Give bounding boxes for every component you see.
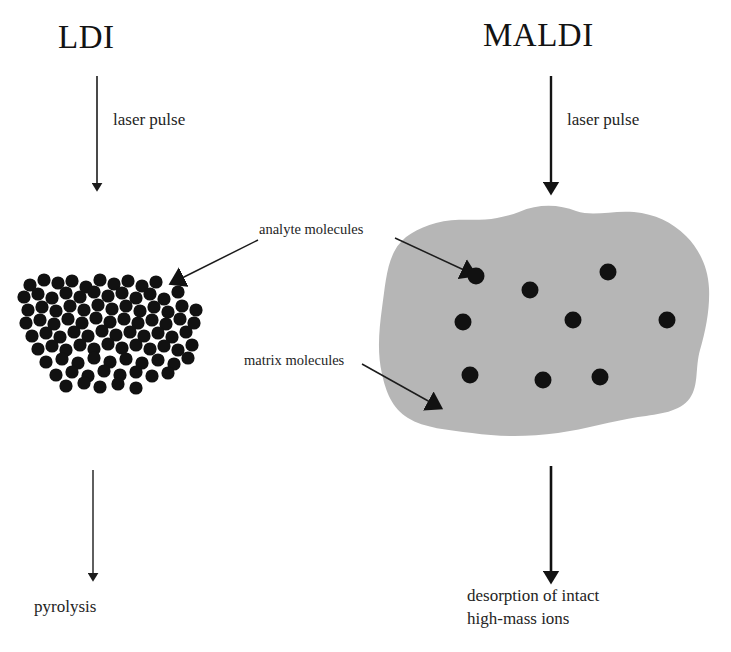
analyte-molecule-dot [95,324,108,337]
analyte-molecule-dot [37,273,50,286]
analyte-molecule-dot [63,299,76,312]
analyte-molecule-dot [161,305,174,318]
analyte-molecule-dot [115,286,128,299]
analyte-molecule-dot [143,342,156,355]
analyte-molecule-dot [21,303,34,316]
analyte-molecule-dot [55,352,68,365]
analyte-molecule-dot [111,377,124,390]
maldi-outcome-label-line2: high-mass ions [467,609,569,629]
analyte-molecule-dot [89,311,102,324]
analyte-molecule-dot [101,337,114,350]
analyte-molecule-dot [65,365,78,378]
analyte-molecule-dot [522,282,539,299]
analyte-molecule-dot [33,313,46,326]
analyte-molecule-dot [87,351,100,364]
analyte-molecule-dot [59,379,72,392]
analyte-molecule-dot [119,299,132,312]
analyte-molecule-dot [77,376,90,389]
analyte-leader-left [182,240,258,278]
analyte-molecule-dot [35,300,48,313]
analyte-molecule-dot [659,312,676,329]
analyte-molecule-dot [121,274,134,287]
analyte-molecule-dot [468,268,485,285]
analyte-molecule-dot [119,352,132,365]
ldi-panel-title: LDI [58,18,114,57]
analyte-molecule-dot [49,368,62,381]
analyte-molecule-dot [67,325,80,338]
analyte-molecule-dot [45,291,58,304]
analyte-molecule-dot [101,289,114,302]
analyte-molecule-dot [61,312,74,325]
analyte-molecule-dot [189,303,202,316]
ldi-laser-pulse-label: laser pulse [113,110,185,130]
analyte-molecule-dot [123,325,136,338]
analyte-molecule-dot [175,299,188,312]
analyte-molecule-dot [93,380,106,393]
analyte-molecule-dot [462,367,479,384]
analyte-molecule-dot [65,274,78,287]
analyte-molecule-dot [59,286,72,299]
analyte-molecule-dot [117,312,130,325]
analyte-molecule-dot [133,304,146,317]
analyte-molecule-dot [31,342,44,355]
analyte-molecules-label: analyte molecules [259,221,363,238]
analyte-molecule-dot [151,353,164,366]
analyte-molecule-dot [31,287,44,300]
analyte-molecule-dot [145,313,158,326]
analyte-molecule-dot [149,275,162,288]
matrix-molecules-label: matrix molecules [244,352,344,369]
analyte-molecule-dot [565,312,582,329]
analyte-molecule-dot [600,264,617,281]
ldi-outcome-label: pyrolysis [34,597,96,617]
analyte-molecule-dot [185,338,198,351]
analyte-molecule-dot [173,312,186,325]
analyte-molecule-dot [17,290,30,303]
analyte-molecule-dot [19,316,32,329]
analyte-molecule-dot [105,302,118,315]
analyte-molecule-dot [455,314,472,331]
analyte-molecule-dot [39,326,52,339]
maldi-outcome-label-line1: desorption of intact [467,586,599,606]
analyte-molecule-dot [73,290,86,303]
analyte-molecule-dot [592,369,609,386]
analyte-molecule-dot [39,355,52,368]
ldi-molecule-cluster [17,273,202,394]
analyte-molecule-dot [147,300,160,313]
analyte-molecule-dot [45,339,58,352]
analyte-molecule-dot [157,339,170,352]
analyte-molecule-dot [143,287,156,300]
analyte-molecule-dot [129,365,142,378]
analyte-molecule-dot [181,351,194,364]
maldi-laser-pulse-label: laser pulse [567,110,639,130]
diagram-graphics-layer [0,0,731,652]
analyte-molecule-dot [49,304,62,317]
analyte-molecule-dot [25,329,38,342]
analyte-molecule-dot [179,325,192,338]
analyte-molecule-dot [161,366,174,379]
analyte-molecule-dot [171,285,184,298]
ldi-maldi-figure: LDI MALDI laser pulse laser pulse analyt… [0,0,731,652]
analyte-molecule-dot [93,273,106,286]
analyte-molecule-dot [145,369,158,382]
analyte-molecule-dot [73,338,86,351]
maldi-panel-title: MALDI [483,16,594,55]
analyte-molecule-dot [129,338,142,351]
analyte-molecule-dot [151,326,164,339]
analyte-molecule-dot [535,372,552,389]
analyte-molecule-dot [87,285,100,298]
analyte-molecule-dot [97,364,110,377]
analyte-molecule-dot [129,381,142,394]
analyte-molecule-dot [91,298,104,311]
analyte-molecule-dot [77,303,90,316]
